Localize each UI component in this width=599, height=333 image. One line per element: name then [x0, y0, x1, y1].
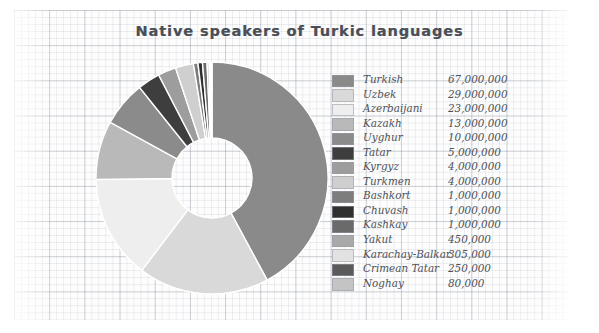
legend-label: Kazakh — [363, 117, 402, 129]
legend-label: Crimean Tatar — [363, 262, 439, 274]
legend-value: 67,000,000 — [448, 73, 508, 85]
legend-item: Kazakh13,000,000 — [332, 117, 562, 132]
legend-color-swatch — [332, 147, 354, 160]
legend-label: Turkmen — [363, 175, 411, 187]
chart-title: Native speakers of Turkic languages — [0, 23, 599, 39]
legend-value: 305,000 — [448, 248, 491, 260]
legend-value: 29,000,000 — [448, 88, 508, 100]
legend-item: Kyrgyz4,000,000 — [332, 160, 562, 175]
legend-item: Turkish67,000,000 — [332, 73, 562, 88]
legend-value: 13,000,000 — [448, 117, 508, 129]
legend-color-swatch — [332, 176, 354, 189]
legend-item: Yakut450,000 — [332, 233, 562, 248]
legend-value: 1,000,000 — [448, 189, 501, 201]
legend-label: Yakut — [363, 233, 392, 245]
legend-color-swatch — [332, 220, 354, 233]
legend-color-swatch — [332, 278, 354, 291]
legend-item: Bashkort1,000,000 — [332, 189, 562, 204]
legend-label: Turkish — [363, 73, 403, 85]
legend-value: 23,000,000 — [448, 102, 508, 114]
legend-item: Karachay-Balkar305,000 — [332, 248, 562, 263]
legend-item: Crimean Tatar250,000 — [332, 262, 562, 277]
legend-item: Turkmen4,000,000 — [332, 175, 562, 190]
legend-color-swatch — [332, 249, 354, 262]
chart-legend: Turkish67,000,000Uzbek29,000,000Azerbaij… — [332, 73, 562, 291]
legend-value: 250,000 — [448, 262, 491, 274]
chart-figure: Native speakers of Turkic languages Turk… — [0, 0, 599, 333]
legend-value: 1,000,000 — [448, 218, 501, 230]
legend-label: Kyrgyz — [363, 160, 399, 172]
legend-item: Uzbek29,000,000 — [332, 88, 562, 103]
legend-color-swatch — [332, 104, 354, 117]
legend-item: Chuvash1,000,000 — [332, 204, 562, 219]
legend-color-swatch — [332, 191, 354, 204]
legend-label: Bashkort — [363, 189, 411, 201]
legend-color-swatch — [332, 264, 354, 277]
legend-value: 10,000,000 — [448, 131, 508, 143]
legend-color-swatch — [332, 89, 354, 102]
legend-color-swatch — [332, 206, 354, 219]
legend-item: Uyghur10,000,000 — [332, 131, 562, 146]
donut-chart — [96, 52, 328, 304]
legend-item: Noghay80,000 — [332, 277, 562, 292]
legend-value: 4,000,000 — [448, 160, 501, 172]
legend-value: 5,000,000 — [448, 146, 501, 158]
legend-value: 450,000 — [448, 233, 491, 245]
legend-label: Uyghur — [363, 131, 403, 143]
donut-svg — [96, 52, 328, 304]
legend-value: 1,000,000 — [448, 204, 501, 216]
legend-label: Uzbek — [363, 88, 396, 100]
legend-item: Azerbaijani23,000,000 — [332, 102, 562, 117]
legend-color-swatch — [332, 118, 354, 131]
legend-item: Kashkay1,000,000 — [332, 218, 562, 233]
legend-label: Kashkay — [363, 218, 407, 230]
legend-color-swatch — [332, 75, 354, 88]
legend-label: Noghay — [363, 277, 404, 289]
legend-value: 80,000 — [448, 277, 484, 289]
legend-value: 4,000,000 — [448, 175, 501, 187]
legend-label: Azerbaijani — [363, 102, 423, 114]
legend-color-swatch — [332, 235, 354, 248]
legend-color-swatch — [332, 162, 354, 175]
legend-color-swatch — [332, 133, 354, 146]
pie-slice-group — [96, 62, 328, 294]
legend-item: Tatar5,000,000 — [332, 146, 562, 161]
legend-label: Chuvash — [363, 204, 408, 216]
legend-label: Tatar — [363, 146, 391, 158]
legend-label: Karachay-Balkar — [363, 248, 451, 260]
